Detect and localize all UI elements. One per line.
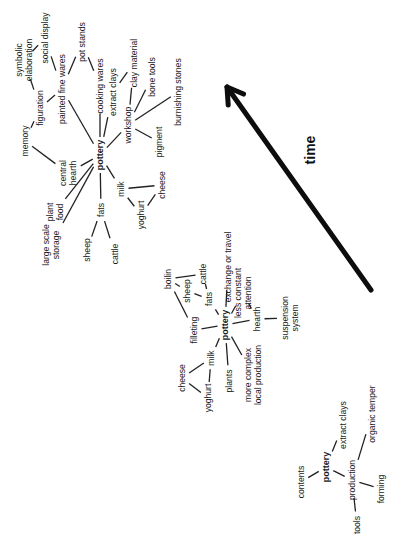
node-late-cattle: cattle [110, 244, 120, 265]
node-late-plantfood: plantfood [45, 202, 65, 221]
edge-early-production-forming [359, 482, 373, 486]
node-label-line: cheese [157, 171, 167, 199]
node-late-fats: fats [96, 203, 106, 217]
node-label-line: organic temper [367, 385, 377, 442]
edge-late-milk-pottery [107, 166, 115, 179]
node-late-cooking: cooking wares [95, 59, 105, 114]
edge-middle-boiling-cattle [175, 275, 195, 278]
node-label-line: elaboration [24, 39, 34, 82]
node-middle-hearth: hearth [252, 307, 262, 332]
node-label-line: plant [45, 202, 55, 221]
edge-early-contents-pottery [308, 471, 319, 477]
edge-middle-cheese-yoghurt [189, 383, 201, 392]
node-late-bonetools: bone tools [147, 57, 157, 97]
edge-middle-sheep-fats [194, 294, 201, 297]
edge-middle-plants-pottery [226, 343, 228, 365]
node-label-line: attention [243, 276, 253, 309]
node-label-line: sheep [82, 238, 92, 262]
node-late-potstands: pot stands [77, 22, 87, 62]
node-label-line: suspension [280, 296, 290, 340]
node-late-extract: extract clays [108, 68, 118, 116]
edge-middle-milk-yoghurt [209, 369, 210, 382]
node-late-social: social display [40, 12, 50, 64]
node-late-pigment: pigment [154, 126, 164, 157]
node-late-sheep: sheep [82, 238, 92, 262]
node-label-line: pot stands [77, 22, 87, 62]
node-late-claymat: clay material [129, 39, 139, 87]
node-label-line: boilin [163, 269, 173, 289]
node-label-line: production [347, 460, 357, 500]
node-early-contents: contents [296, 466, 306, 499]
node-label-line: hearth [68, 161, 78, 186]
node-middle-complex: more complexlocal production [243, 345, 263, 405]
edge-late-painted-pottery [68, 100, 93, 143]
node-label-line: workshop [123, 106, 133, 144]
nodes-layer: potterysymbolicelaborationsocial display… [14, 12, 386, 534]
node-label-line: social display [40, 12, 50, 64]
edge-late-social-painted [51, 56, 56, 70]
node-label-line: less constant [233, 267, 243, 318]
edge-late-central-pottery [81, 159, 93, 166]
edge-late-workshop-pottery [107, 132, 121, 147]
node-label-line: pottery [95, 140, 105, 171]
node-label-line: cheese [177, 364, 187, 392]
node-late-painted: painted fine wares [57, 54, 67, 124]
node-late-central: centralhearth [58, 160, 78, 186]
node-late-yoghurt: yoghurt [136, 200, 146, 229]
node-middle-lessconst: less constantattention [233, 267, 253, 318]
node-label-line: large scale [41, 224, 51, 266]
node-label-line: tools [352, 516, 362, 534]
node-late-symbolic: symbolicelaboration [14, 39, 34, 82]
edge-early-pottery-production [333, 471, 344, 477]
node-label-line: burnishing stones [173, 58, 183, 125]
node-label-line: exchange or travel [223, 232, 233, 303]
edge-late-memory-central [32, 146, 55, 163]
node-label-line: pottery [321, 452, 331, 483]
node-early-extract: extract clays [338, 401, 348, 449]
node-middle-filleting: filleting [189, 316, 199, 343]
node-label-line: yoghurt [203, 383, 213, 412]
node-label-line: system [290, 304, 300, 331]
node-early-tools: tools [352, 516, 362, 534]
node-label-line: local production [253, 345, 263, 405]
node-label-line: pottery [220, 310, 230, 341]
node-late-burnishing: burnishing stones [173, 58, 183, 125]
edge-early-extract-pottery [332, 440, 336, 451]
node-label-line: milk [206, 350, 216, 366]
node-label-line: sheep [182, 279, 192, 303]
node-label-line: extract clays [338, 401, 348, 449]
edge-late-figuration-memory [31, 121, 34, 128]
node-label-line: food [55, 203, 65, 220]
node-early-production: production [347, 460, 357, 500]
node-middle-suspension: suspensionsystem [280, 296, 300, 340]
pottery-timeline-diagram: time potterysymbolicelaborationsocial di… [0, 0, 395, 542]
node-label-line: bone tools [147, 57, 157, 97]
edge-early-production-organic [358, 434, 366, 460]
node-middle-milk: milk [206, 350, 216, 366]
edge-late-pigment-workshop [135, 129, 151, 138]
edge-middle-milk-cheese [189, 363, 204, 373]
node-label-line: more complex [243, 347, 253, 402]
node-late-milk: milk [116, 181, 126, 197]
node-late-cheese: cheese [157, 171, 167, 199]
edge-late-claymat-workshop [130, 88, 132, 105]
node-label-line: yoghurt [136, 200, 146, 229]
node-label-line: hearth [252, 307, 262, 332]
node-label-line: plants [224, 370, 234, 393]
edge-late-bonetools-workshop [134, 90, 145, 112]
edge-middle-milk-pottery [216, 338, 220, 347]
node-late-pottery: pottery [95, 140, 105, 171]
node-label-line: cooking wares [95, 59, 105, 114]
node-middle-cattle: cattle [198, 264, 208, 285]
node-label-line: fats [96, 203, 106, 217]
edge-late-painted-figuration [47, 95, 55, 102]
node-label-line: fats [204, 292, 214, 306]
node-label-line: painted fine wares [57, 54, 67, 124]
edge-late-milk-yoghurt [128, 198, 135, 207]
node-middle-pottery: pottery [220, 310, 230, 341]
edge-late-milk-cheese [128, 186, 154, 189]
node-middle-plants: plants [224, 370, 234, 393]
node-early-organic: organic temper [367, 385, 377, 442]
node-middle-fats: fats [204, 292, 214, 306]
edge-middle-hearth-pottery [232, 320, 249, 323]
